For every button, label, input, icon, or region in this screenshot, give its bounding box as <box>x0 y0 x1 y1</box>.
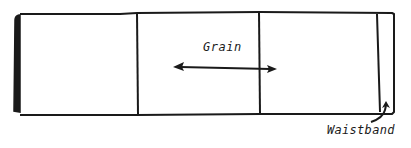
pattern-outline <box>20 12 394 115</box>
pattern-diagram: Grain Waistband <box>0 0 411 148</box>
waistband-label: Waistband <box>327 123 395 137</box>
selvage-edge <box>14 15 20 112</box>
waistband-divider <box>377 14 380 112</box>
grain-label: Grain <box>203 40 242 54</box>
grain-arrow-shaft <box>180 67 270 69</box>
section-divider-2 <box>259 12 260 114</box>
section-divider-1 <box>137 13 138 115</box>
